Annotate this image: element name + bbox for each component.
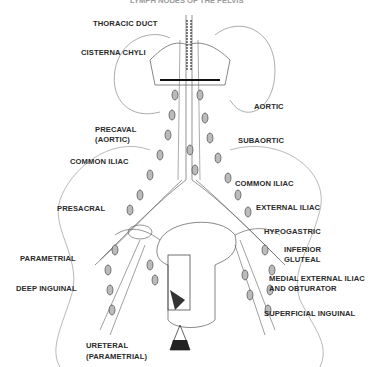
label-ureteral-1: URETERAL bbox=[86, 341, 128, 351]
lymph-node-diagram: LYMPH NODES OF THE PELVIS THORACIC DUCT … bbox=[0, 0, 383, 367]
label-precaval-1: PRECAVAL bbox=[95, 125, 136, 135]
uterus bbox=[157, 222, 236, 327]
figure-title-partial: LYMPH NODES OF THE PELVIS bbox=[130, 0, 244, 5]
vena-cava bbox=[178, 40, 200, 180]
label-common-iliac-left: COMMON ILIAC bbox=[70, 157, 129, 167]
label-medial-external-iliac-2: AND OBTURATOR bbox=[269, 284, 337, 294]
label-inferior-gluteal-2: GLUTEAL bbox=[284, 255, 321, 265]
label-deep-inguinal: DEEP INGUINAL bbox=[16, 284, 77, 294]
label-hypogastric: HYPOGASTRIC bbox=[264, 227, 321, 237]
right-kidney bbox=[215, 26, 275, 112]
left-ovary bbox=[128, 225, 152, 239]
label-parametrial: PARAMETRIAL bbox=[20, 254, 76, 264]
diaphragm bbox=[150, 43, 230, 85]
label-inferior-gluteal-1: INFERIOR bbox=[284, 245, 321, 255]
label-medial-external-iliac-1: MEDIAL EXTERNAL ILIAC bbox=[269, 274, 365, 284]
label-presacral: PRESACRAL bbox=[57, 204, 105, 214]
label-superficial-inguinal: SUPERFICIAL INGUINAL bbox=[264, 309, 355, 319]
label-cisterna-chyli: CISTERNA CHYLI bbox=[81, 48, 146, 58]
label-ureteral-2: (PARAMETRIAL) bbox=[86, 352, 147, 362]
label-thoracic-duct: THORACIC DUCT bbox=[93, 19, 158, 29]
label-external-iliac: EXTERNAL ILIAC bbox=[256, 203, 320, 213]
label-common-iliac-right: COMMON ILIAC bbox=[235, 179, 294, 189]
label-precaval-2: (AORTIC) bbox=[95, 135, 130, 145]
left-kidney bbox=[114, 35, 170, 114]
label-aortic: AORTIC bbox=[254, 102, 284, 112]
label-subaortic: SUBAORTIC bbox=[238, 136, 284, 146]
